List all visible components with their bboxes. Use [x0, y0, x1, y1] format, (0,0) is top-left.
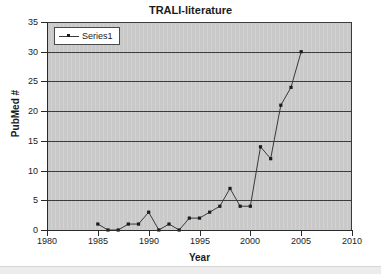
x-tick-label-1985: 1985 — [78, 237, 118, 246]
data-point-1998 — [228, 187, 231, 190]
y-tick-label-25: 25 — [8, 77, 38, 86]
x-tick-label-2010: 2010 — [332, 237, 372, 246]
data-point-1988 — [127, 222, 130, 225]
plot-area — [47, 22, 352, 230]
data-point-2004 — [289, 86, 292, 89]
data-point-2005 — [300, 50, 303, 53]
data-point-1999 — [239, 205, 242, 208]
y-tick-label-35: 35 — [8, 18, 38, 27]
y-tick-20 — [41, 111, 47, 112]
x-tick-label-1980: 1980 — [27, 237, 67, 246]
data-point-1992 — [167, 222, 170, 225]
data-point-1985 — [96, 222, 99, 225]
data-point-1990 — [147, 211, 150, 214]
y-tick-label-0: 0 — [8, 226, 38, 235]
x-tick-label-1990: 1990 — [129, 237, 169, 246]
y-axis-line — [47, 22, 48, 231]
y-tick-15 — [41, 141, 47, 142]
data-point-1994 — [188, 217, 191, 220]
data-point-2001 — [259, 145, 262, 148]
y-tick-5 — [41, 200, 47, 201]
data-point-1997 — [218, 205, 221, 208]
data-point-2002 — [269, 157, 272, 160]
data-point-2003 — [279, 104, 282, 107]
x-tick-label-1995: 1995 — [180, 237, 220, 246]
y-tick-label-10: 10 — [8, 167, 38, 176]
y-tick-35 — [41, 22, 47, 23]
series-path-series1 — [98, 52, 301, 230]
y-tick-label-5: 5 — [8, 196, 38, 205]
chart-title: TRALI-literature — [0, 4, 381, 16]
data-point-1989 — [137, 222, 140, 225]
chart-legend[interactable]: Series1 — [54, 27, 120, 45]
x-tick-label-2000: 2000 — [230, 237, 270, 246]
y-tick-10 — [41, 171, 47, 172]
data-point-1995 — [198, 217, 201, 220]
legend-label-series1: Series1 — [82, 31, 113, 41]
series-line-series1 — [47, 22, 352, 230]
x-tick-label-2005: 2005 — [281, 237, 321, 246]
y-tick-label-15: 15 — [8, 137, 38, 146]
data-point-1996 — [208, 211, 211, 214]
y-tick-label-30: 30 — [8, 48, 38, 57]
bottom-strip — [0, 266, 381, 274]
data-point-2000 — [249, 205, 252, 208]
y-tick-30 — [41, 52, 47, 53]
x-axis-title: Year — [47, 252, 352, 263]
y-tick-25 — [41, 81, 47, 82]
y-tick-label-20: 20 — [8, 107, 38, 116]
legend-line-marker-icon — [59, 32, 79, 40]
